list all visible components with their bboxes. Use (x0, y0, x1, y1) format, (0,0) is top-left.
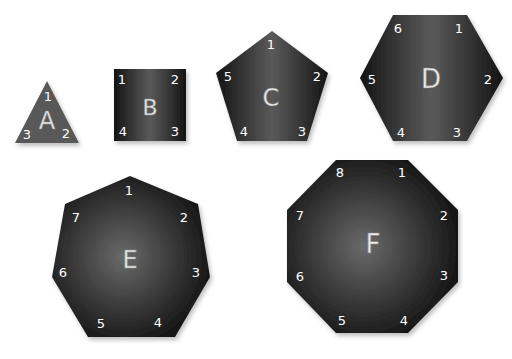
shape-d-hexagon: D 1 2 3 4 5 6 (360, 15, 503, 141)
shape-letter: D (421, 64, 441, 94)
vertex-label: 5 (368, 72, 376, 87)
shape-f-octagon: F 1 2 3 4 5 6 7 8 (287, 160, 458, 333)
vertex-label: 6 (59, 265, 67, 280)
shape-letter: B (142, 95, 157, 120)
vertex-label: 3 (192, 265, 200, 280)
shape-letter: C (263, 84, 280, 112)
vertex-label: 4 (400, 313, 408, 328)
vertex-label: 2 (440, 208, 448, 223)
vertex-label: 3 (440, 268, 448, 283)
vertex-label: 6 (394, 21, 402, 36)
vertex-label: 7 (72, 210, 80, 225)
shape-b-square: B 1 2 3 4 (114, 69, 186, 141)
vertex-label: 3 (298, 124, 306, 139)
vertex-label: 6 (296, 269, 304, 284)
vertex-label: 2 (180, 210, 188, 225)
vertex-label: 1 (267, 37, 275, 52)
vertex-label: 1 (398, 165, 406, 180)
shape-c-pentagon: C 1 2 3 4 5 (216, 31, 328, 141)
vertex-label: 2 (62, 126, 70, 141)
vertex-label: 1 (455, 21, 463, 36)
vertex-label: 5 (338, 313, 346, 328)
polygon-diagram: A 1 2 3 B 1 2 3 4 C 1 2 3 4 5 D 1 2 3 4 … (0, 0, 512, 359)
shape-letter: E (122, 246, 137, 274)
vertex-label: 1 (44, 89, 52, 104)
vertex-label: 1 (118, 72, 126, 87)
vertex-label: 4 (397, 125, 405, 140)
vertex-label: 4 (154, 315, 162, 330)
vertex-label: 3 (23, 127, 31, 142)
vertex-label: 5 (224, 69, 232, 84)
vertex-label: 5 (97, 316, 105, 331)
vertex-label: 2 (313, 69, 321, 84)
vertex-label: 3 (453, 125, 461, 140)
shape-letter: F (366, 229, 381, 259)
vertex-label: 4 (119, 124, 127, 139)
vertex-label: 3 (171, 124, 179, 139)
vertex-label: 2 (171, 72, 179, 87)
vertex-label: 7 (296, 208, 304, 223)
vertex-label: 2 (484, 72, 492, 87)
vertex-label: 4 (240, 124, 248, 139)
shape-a-triangle: A 1 2 3 (15, 81, 79, 143)
vertex-label: 8 (336, 165, 344, 180)
shape-e-heptagon: E 1 2 3 4 5 6 7 (52, 176, 210, 337)
shape-letter: A (39, 107, 56, 135)
vertex-label: 1 (125, 183, 133, 198)
